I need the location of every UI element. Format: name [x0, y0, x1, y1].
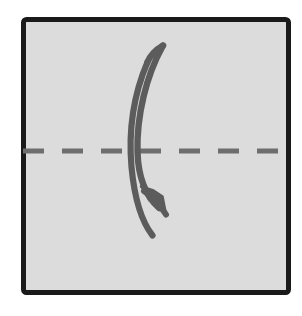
diagram-canvas [0, 0, 302, 316]
origami-fold-diagram [0, 0, 302, 316]
